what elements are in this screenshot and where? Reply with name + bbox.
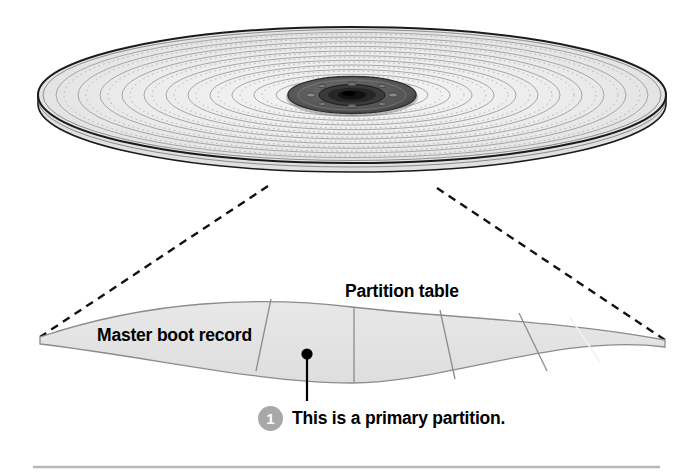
- callout-note-text: This is a primary partition.: [292, 408, 505, 429]
- callout-note: 1 This is a primary partition.: [258, 406, 505, 431]
- disk-partition-figure: Partition table Master boot record 1 Thi…: [0, 0, 695, 476]
- callout-number-badge: 1: [258, 406, 283, 431]
- platter-hub: [286, 77, 418, 118]
- callout-pointer-dot: [301, 348, 312, 359]
- figure-canvas: [0, 0, 695, 476]
- partition-table-label: Partition table: [345, 281, 459, 302]
- hard-disk-platter: [38, 27, 666, 172]
- master-boot-record-label: Master boot record: [97, 325, 252, 346]
